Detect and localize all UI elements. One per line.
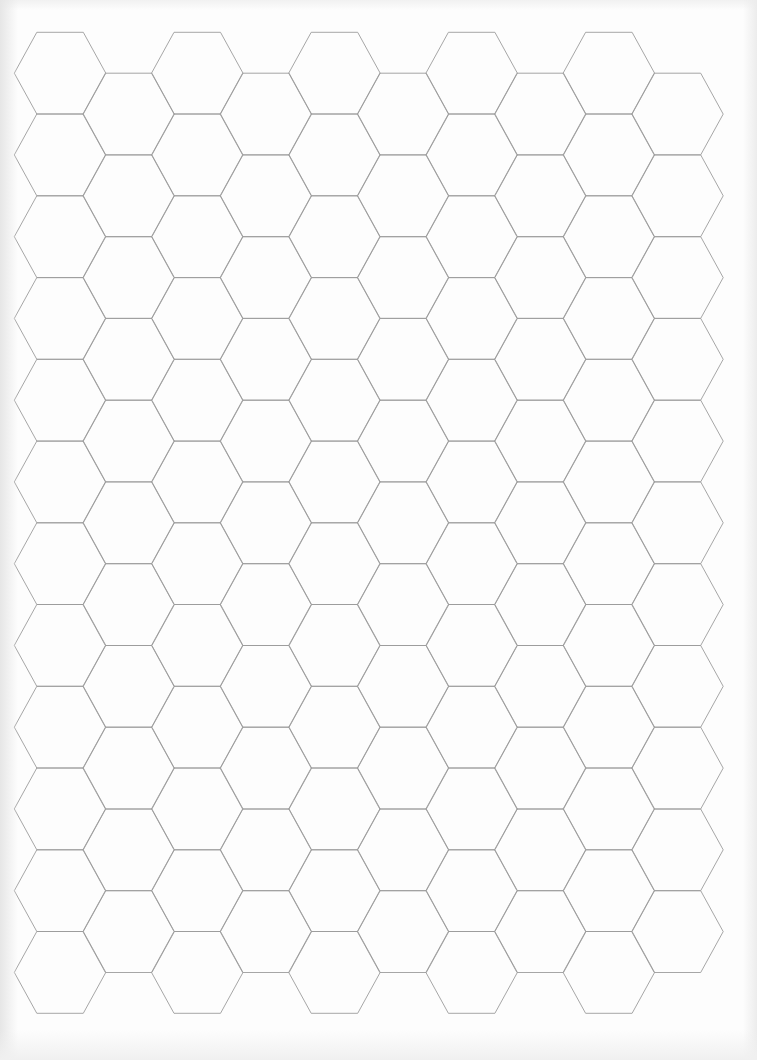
hexagon-cell: [632, 237, 724, 319]
hexagon-cell: [220, 564, 312, 646]
hexagon-cell: [152, 605, 244, 687]
hexagon-cell: [289, 359, 381, 441]
hexagon-cell: [14, 441, 106, 523]
hexagon-cell: [632, 155, 724, 237]
hexagon-cell: [152, 932, 244, 1014]
hexagon-cell: [426, 768, 518, 850]
hexagon-cell: [357, 564, 449, 646]
hexagon-cell: [83, 237, 174, 319]
hexagon-cell: [357, 155, 449, 237]
hexagon-cell: [495, 482, 587, 564]
hexagon-grid: [0, 0, 757, 1060]
hexagon-cell: [563, 196, 655, 278]
hexagon-cell: [426, 932, 518, 1014]
hexagon-cell: [14, 850, 106, 932]
hexagon-cell: [220, 727, 312, 809]
hexagon-cell: [632, 400, 724, 482]
hexagon-cell: [83, 73, 174, 155]
hexagon-cell: [563, 932, 655, 1014]
hexagon-cell: [152, 278, 244, 360]
hexagon-cell: [495, 564, 587, 646]
hexagon-cell: [632, 482, 724, 564]
hexagon-cell: [563, 32, 655, 114]
hexagon-cell: [563, 359, 655, 441]
hexagon-cell: [14, 605, 106, 687]
hexagon-cell: [563, 523, 655, 605]
hexagon-cell: [357, 646, 449, 728]
hexagon-cell: [220, 646, 312, 728]
hexagon-cell: [289, 686, 381, 768]
hexagon-cell: [152, 32, 244, 114]
hexagon-cell: [83, 155, 174, 237]
hexagon-cell: [14, 932, 106, 1014]
hexagon-cell: [14, 359, 106, 441]
hexagon-cell: [289, 441, 381, 523]
hexagon-cell: [152, 196, 244, 278]
hexagon-cell: [289, 196, 381, 278]
hexagon-cell: [563, 278, 655, 360]
hexagon-cell: [563, 114, 655, 196]
hexagon-cell: [83, 727, 174, 809]
hexagon-cell: [357, 318, 449, 400]
hexagon-cell: [220, 891, 312, 973]
hexagon-cell: [632, 646, 724, 728]
hexagon-cell: [495, 155, 587, 237]
hexagon-cell: [632, 564, 724, 646]
hexagon-cell: [495, 727, 587, 809]
hexagon-cell: [357, 891, 449, 973]
hexagon-cell: [426, 32, 518, 114]
hexagon-cell: [426, 686, 518, 768]
hexagon-cell: [426, 359, 518, 441]
hexagon-cell: [289, 114, 381, 196]
scan-left-shadow: [0, 0, 18, 1060]
hexagon-cell: [563, 850, 655, 932]
hexagon-cell: [152, 850, 244, 932]
hexagon-cell: [14, 768, 106, 850]
hexagon-cell: [426, 114, 518, 196]
hexagon-cell: [83, 482, 174, 564]
hexagon-cell: [632, 809, 724, 891]
scan-right-shadow: [743, 0, 757, 1060]
hexagon-cell: [563, 686, 655, 768]
hexagon-cell: [14, 196, 106, 278]
hexagon-cell: [357, 482, 449, 564]
hexagon-cell: [220, 400, 312, 482]
hexagon-cell: [357, 400, 449, 482]
hexagon-cell: [563, 441, 655, 523]
hexagon-cell: [426, 850, 518, 932]
hexagon-cell: [220, 482, 312, 564]
hexagon-cell: [357, 727, 449, 809]
hexagon-cell: [83, 564, 174, 646]
hexagon-cell: [152, 768, 244, 850]
hexagon-cell: [289, 932, 381, 1014]
hexagon-cell: [152, 114, 244, 196]
hexagon-cell: [426, 196, 518, 278]
hexagon-cell: [220, 237, 312, 319]
hexagon-cell: [289, 32, 381, 114]
hexagon-cell: [632, 891, 724, 973]
hexagon-cell: [632, 318, 724, 400]
hexagon-cell: [83, 891, 174, 973]
hexagon-cell: [563, 605, 655, 687]
hexagon-cell: [14, 686, 106, 768]
hexagon-cell: [220, 809, 312, 891]
scan-bottom-band: [0, 1030, 757, 1060]
hexagon-cell: [426, 523, 518, 605]
hexagon-cell: [289, 850, 381, 932]
hexagon-cell: [152, 359, 244, 441]
hexagon-cell: [14, 114, 106, 196]
hexagon-cell: [495, 318, 587, 400]
hexagon-cell: [83, 809, 174, 891]
hexagon-cell: [495, 809, 587, 891]
hexagon-cell: [632, 727, 724, 809]
hexagon-cell: [289, 605, 381, 687]
hexagon-cell: [357, 237, 449, 319]
hexagon-cell: [83, 646, 174, 728]
hexagon-cell: [289, 768, 381, 850]
hexagon-cell: [14, 278, 106, 360]
hexagon-cell: [495, 646, 587, 728]
hexagon-cell: [220, 73, 312, 155]
hexagon-cell: [563, 768, 655, 850]
hexagon-cell: [14, 523, 106, 605]
hexagon-cell: [220, 318, 312, 400]
